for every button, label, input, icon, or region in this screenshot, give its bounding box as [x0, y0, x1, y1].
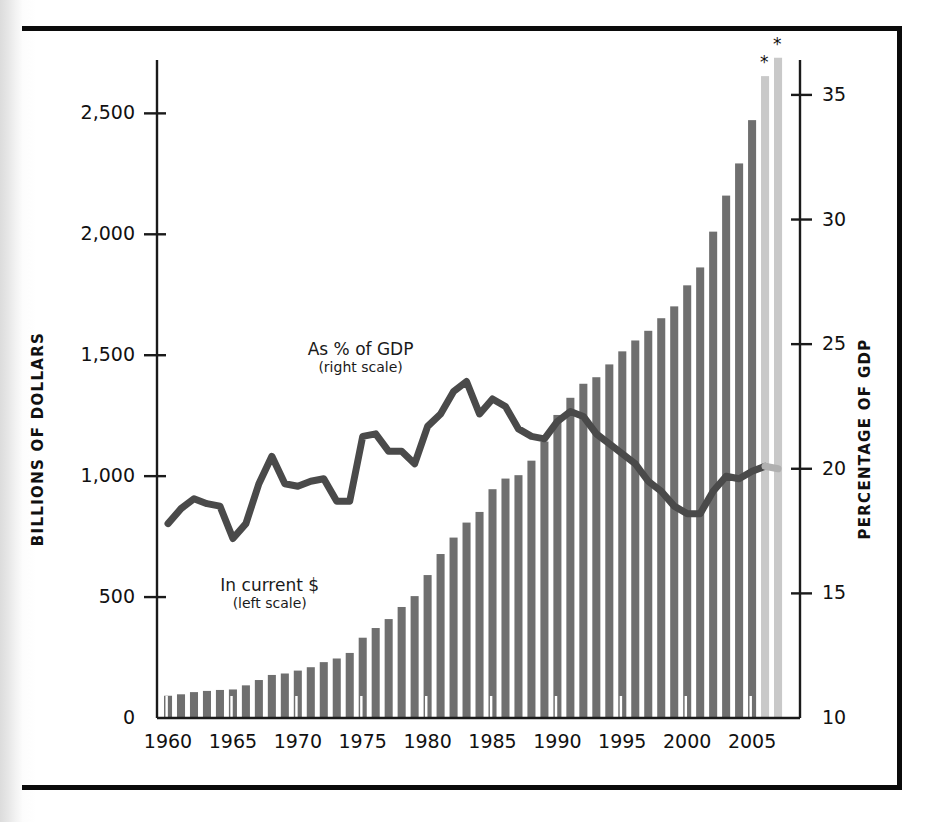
right-axis-tick-label: 10: [822, 706, 846, 728]
bar-actual: [748, 120, 756, 718]
x-axis-tick-label: 1990: [523, 730, 591, 752]
bar-actual: [359, 638, 367, 718]
bar-actual: [709, 232, 717, 718]
annotation-line-series: As % of GDP (right scale): [241, 339, 481, 376]
annotation-line-scale: (right scale): [241, 359, 481, 376]
bar-actual: [333, 659, 341, 719]
bar-actual: [294, 671, 302, 718]
bar-actual: [242, 685, 250, 718]
annotation-bar-series: In current $ (left scale): [150, 575, 390, 612]
bar-actual: [631, 340, 639, 718]
bar-actual: [683, 285, 691, 718]
left-axis-tick-label: 0: [0, 706, 135, 728]
xaxis-notch: [750, 696, 752, 718]
right-axis-tick-label: 25: [822, 332, 846, 354]
chart-svg: [0, 0, 952, 822]
bar-projected: [774, 58, 782, 718]
right-axis-title: PERCENTAGE OF GDP: [856, 309, 874, 569]
right-axis-tick-label: 15: [822, 581, 846, 603]
left-axis-tick-label: 1,500: [0, 343, 135, 365]
xaxis-notch: [165, 696, 167, 718]
bar-actual: [644, 331, 652, 718]
bar-actual: [722, 196, 730, 718]
bar-actual: [398, 607, 406, 718]
bar-actual: [281, 674, 289, 719]
x-axis-tick-label: 1970: [264, 730, 332, 752]
bar-actual: [540, 442, 548, 718]
bar-actual: [735, 163, 743, 718]
bar-actual: [696, 267, 704, 718]
bar-actual: [164, 696, 172, 718]
left-axis-tick-label: 500: [0, 585, 135, 607]
bar-actual: [514, 475, 522, 718]
bar-actual: [657, 318, 665, 718]
bar-actual: [372, 628, 380, 718]
bar-actual: [203, 691, 211, 718]
xaxis-notch: [685, 696, 687, 718]
bar-actual: [527, 461, 535, 718]
bar-actual: [463, 523, 471, 718]
x-axis-tick-label: 1975: [329, 730, 397, 752]
annotation-line-title: As % of GDP: [241, 339, 481, 359]
bar-actual: [579, 384, 587, 718]
xaxis-notch: [360, 696, 362, 718]
xaxis-notch: [295, 696, 297, 718]
x-axis-tick-label: 1980: [394, 730, 462, 752]
projection-asterisk: *: [760, 54, 769, 71]
right-axis-tick-label: 20: [822, 457, 846, 479]
bar-actual: [255, 680, 263, 718]
bar-actual: [618, 351, 626, 718]
bar-actual: [488, 489, 496, 718]
bar-actual: [229, 689, 237, 718]
xaxis-notch: [555, 696, 557, 718]
bar-series-group: [164, 58, 782, 718]
xaxis-notch: [425, 696, 427, 718]
x-axis-tick-label: 2005: [718, 730, 786, 752]
bar-actual: [450, 538, 458, 718]
bar-actual: [424, 575, 432, 718]
bar-actual: [476, 512, 484, 718]
bar-actual: [320, 662, 328, 718]
annotation-bar-scale: (left scale): [150, 595, 390, 612]
bar-actual: [268, 675, 276, 718]
x-axis-tick-label: 1985: [459, 730, 527, 752]
x-axis-tick-label: 2000: [653, 730, 721, 752]
bar-actual: [190, 692, 198, 718]
line-series-projected: [765, 466, 778, 468]
xaxis-notch: [490, 696, 492, 718]
figure-page: BILLIONS OF DOLLARS PERCENTAGE OF GDP As…: [0, 0, 952, 822]
bar-actual: [177, 694, 185, 718]
left-axis-tick-label: 2,000: [0, 222, 135, 244]
bar-actual: [411, 596, 419, 718]
bar-actual: [346, 653, 354, 718]
right-axis-tick-label: 30: [822, 208, 846, 230]
right-axis-tick-label: 35: [822, 83, 846, 105]
bar-actual: [501, 479, 509, 718]
bar-actual: [216, 690, 224, 718]
xaxis-notch: [620, 696, 622, 718]
bar-actual: [307, 667, 315, 718]
bar-actual: [437, 554, 445, 718]
left-axis-tick-label: 2,500: [0, 101, 135, 123]
projection-asterisk: *: [773, 36, 782, 53]
xaxis-notch: [230, 696, 232, 718]
bar-actual: [553, 415, 561, 718]
bar-actual: [385, 619, 393, 718]
left-axis-tick-label: 1,000: [0, 464, 135, 486]
bar-projected: [761, 76, 769, 718]
annotation-bar-title: In current $: [150, 575, 390, 595]
x-axis-tick-label: 1995: [588, 730, 656, 752]
bar-actual: [566, 398, 574, 718]
bar-actual: [605, 364, 613, 718]
bar-actual: [670, 306, 678, 718]
x-axis-tick-label: 1960: [134, 730, 202, 752]
x-axis-tick-label: 1965: [199, 730, 267, 752]
chart-area: [0, 0, 952, 822]
